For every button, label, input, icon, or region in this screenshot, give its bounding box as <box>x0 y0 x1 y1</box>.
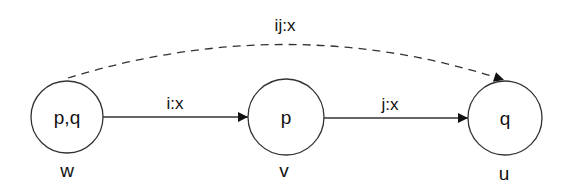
node-v: p v <box>248 79 324 181</box>
edge-w-v: i:x <box>103 94 248 117</box>
node-u: q u <box>468 81 542 184</box>
node-content: q <box>500 108 511 129</box>
node-label: w <box>59 160 74 181</box>
node-w: p,q w <box>31 81 103 181</box>
edge-label-i-x: i:x <box>167 94 185 113</box>
edge-label-ij-x: ij:x <box>275 16 296 35</box>
automaton-diagram: ij:x i:x j:x p,q w p v q u <box>0 0 567 189</box>
node-label: u <box>499 163 510 184</box>
node-label: v <box>279 160 289 181</box>
edge-label-j-x: j:x <box>381 95 400 114</box>
node-content: p <box>281 107 292 128</box>
node-content: p,q <box>54 107 80 128</box>
edge-v-u: j:x <box>322 95 468 118</box>
edge-w-u: ij:x <box>68 16 504 80</box>
